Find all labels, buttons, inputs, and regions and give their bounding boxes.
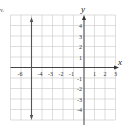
svg-text:-4: -4 [38, 71, 43, 77]
svg-text:-1: -1 [69, 71, 74, 77]
svg-text:-3: -3 [48, 71, 53, 77]
graphed-line-x-eq-neg5 [30, 17, 33, 120]
svg-text:3: 3 [79, 34, 82, 40]
svg-text:-1: -1 [77, 76, 82, 82]
y-tick-labels: 4 3 2 1 -1 -2 -3 -4 [77, 23, 82, 113]
line-arrow-up-icon [30, 17, 33, 22]
line-arrow-down-icon [30, 115, 33, 120]
svg-text:-2: -2 [77, 86, 82, 92]
coordinate-graph: v. x y -6 [0, 0, 123, 125]
svg-text:1: 1 [79, 55, 82, 61]
svg-text:-6: -6 [18, 71, 23, 77]
svg-text:1: 1 [93, 71, 96, 77]
y-axis-arrow-icon [82, 15, 86, 20]
svg-text:3: 3 [114, 71, 117, 77]
problem-label: v. [0, 7, 5, 13]
x-axis-label: x [117, 57, 122, 67]
svg-text:-2: -2 [59, 71, 64, 77]
svg-text:2: 2 [104, 71, 107, 77]
svg-text:-3: -3 [77, 97, 82, 103]
svg-text:4: 4 [79, 23, 82, 29]
y-axis-label: y [80, 4, 85, 14]
svg-text:-4: -4 [77, 107, 82, 113]
x-tick-labels: -6 -4 -3 -2 -1 1 2 3 [18, 71, 118, 77]
svg-text:2: 2 [79, 44, 82, 50]
